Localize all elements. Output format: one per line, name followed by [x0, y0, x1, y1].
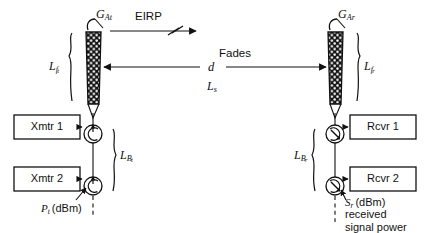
tx-power-units: (dBm): [52, 202, 82, 214]
path-distance-label: d: [208, 60, 214, 74]
rx-branching-loss-sub2: r: [305, 156, 308, 163]
transmit-antenna-gain-label: GAt: [96, 8, 112, 21]
rcvr-1-label: Rcvr 1: [350, 120, 416, 132]
eirp-arrow: [110, 26, 196, 35]
receive-feedline-brace: [357, 33, 360, 101]
rx-feedline-loss-sub2: r: [372, 67, 375, 74]
rcvr-2-label: Rcvr 2: [350, 172, 416, 184]
tx-branching-loss-sub2: t: [131, 156, 133, 163]
fades-label: Fades: [219, 47, 251, 60]
gain-subscript: At: [105, 13, 112, 22]
transmit-feedline-loss-label: Lft: [49, 60, 60, 73]
tx-power-symbol: P: [41, 202, 48, 214]
path-loss-symbol: L: [207, 79, 214, 93]
receive-waveguide: [326, 30, 345, 118]
transmit-feedline-brace: [69, 33, 72, 101]
path-loss-label: Ls: [207, 80, 217, 93]
receive-feedline-loss-label: Lfr: [364, 60, 376, 73]
receive-circulator-1: [326, 125, 344, 143]
eirp-label: EIRP: [135, 10, 162, 23]
rx-branching-loss-symbol: L: [294, 148, 301, 162]
transmit-waveguide: [84, 30, 103, 118]
receive-branching-loss-label: LBr: [294, 149, 308, 162]
rx-signal-desc-1: received: [345, 208, 407, 220]
receive-circulator-2: [326, 177, 344, 195]
xmtr-2-label: Xmtr 2: [14, 172, 80, 184]
link-budget-diagram: GAt EIRP Lft Fades d Ls GAr Lfr Xmtr 1 X…: [0, 0, 430, 233]
rx-signal-desc-2: signal power: [345, 221, 407, 233]
transmit-circulator-2: [84, 177, 102, 196]
transmit-power-label: Pt(dBm): [41, 202, 82, 214]
receive-branching-brace: [312, 129, 315, 191]
rx-gain-subscript: Ar: [347, 13, 355, 22]
receive-signal-label: Sr(dBm) received signal power: [345, 196, 407, 233]
path-loss-subscript: s: [214, 85, 217, 94]
rx-signal-units: (dBm): [355, 196, 385, 208]
tx-branching-loss-symbol: L: [120, 148, 127, 162]
rx-signal-line1: Sr(dBm): [345, 196, 407, 208]
tx-power-subscript: t: [48, 207, 50, 216]
gain-symbol: G: [96, 7, 105, 21]
transmit-circulator-1: [84, 125, 102, 144]
rx-gain-symbol: G: [338, 7, 347, 21]
receive-antenna-gain-label: GAr: [338, 8, 355, 21]
xmtr-1-label: Xmtr 1: [14, 120, 80, 132]
tx-feedline-loss-sub2: t: [57, 67, 59, 74]
rx-signal-symbol: S: [345, 196, 351, 208]
tx-feedline-loss-symbol: L: [49, 59, 56, 73]
rx-feedline-loss-symbol: L: [364, 59, 371, 73]
rx-signal-subscript: r: [351, 201, 354, 210]
transmit-branching-brace: [113, 129, 116, 191]
transmit-branching-loss-label: LBt: [120, 149, 134, 162]
